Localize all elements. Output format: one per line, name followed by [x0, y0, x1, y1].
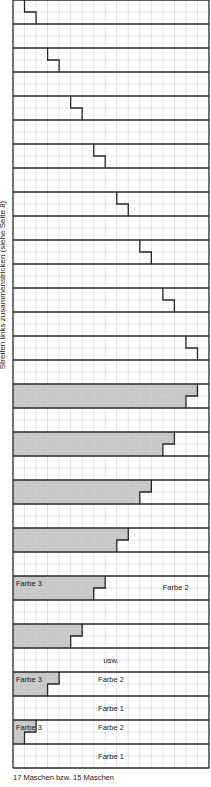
- color-3-area: [13, 540, 117, 552]
- stitch-count-caption: 17 Maschen bzw. 15 Maschen: [13, 773, 114, 782]
- color-label: Farbe 2: [98, 675, 124, 684]
- band-label: usw.: [103, 656, 118, 665]
- step-line: [25, 0, 37, 24]
- color-label: Farbe 2: [98, 723, 124, 732]
- step-line: [140, 240, 152, 264]
- color-3-area: [13, 444, 163, 456]
- band-label: Farbe 1: [98, 704, 124, 713]
- color-3-area: [13, 732, 25, 744]
- color-3-area: [13, 588, 94, 600]
- step-line: [163, 288, 175, 312]
- chart-svg: Farbe 3Farbe 2Farbe 3Farbe 2Farbe 3Farbe…: [12, 0, 210, 769]
- color-3-area: [13, 636, 71, 648]
- color-label: Farbe 3: [16, 675, 42, 684]
- band-lines: [13, 0, 209, 768]
- knitting-chart: Farbe 3Farbe 2Farbe 3Farbe 2Farbe 3Farbe…: [12, 0, 208, 767]
- side-instruction-label: Streifen links zusammenstricken (siehe S…: [0, 170, 8, 400]
- step-line: [71, 96, 83, 120]
- color-label: Farbe 2: [163, 583, 189, 592]
- color-3-area: [13, 684, 48, 696]
- step-line: [186, 336, 198, 360]
- color-label: Farbe 3: [16, 579, 42, 588]
- step-line: [94, 144, 106, 168]
- step-line: [117, 192, 129, 216]
- band-label: Farbe 1: [98, 752, 124, 761]
- color-label: Farbe 3: [16, 723, 42, 732]
- color-3-area: [13, 396, 186, 408]
- color-3-area: [13, 492, 140, 504]
- step-line: [48, 48, 60, 72]
